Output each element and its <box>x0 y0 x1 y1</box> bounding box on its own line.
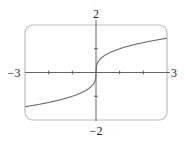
function-plot: 2 −2 −3 3 <box>0 0 184 143</box>
y-min-label: −2 <box>90 124 103 138</box>
x-max-label: 3 <box>171 66 177 80</box>
x-min-label: −3 <box>8 66 21 80</box>
y-max-label: 2 <box>93 7 99 21</box>
